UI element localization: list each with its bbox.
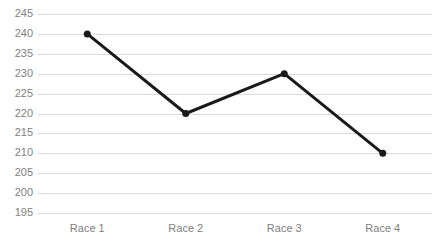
- line-chart: 245240235230225220215210205200195 Race 1…: [0, 0, 437, 242]
- x-axis-tick-label: Race 2: [168, 222, 203, 235]
- gridline: [38, 213, 432, 214]
- series-line: [38, 14, 432, 213]
- x-axis-tick-label: Race 4: [365, 222, 400, 235]
- y-axis-tick-label: 195: [0, 207, 33, 218]
- y-axis-tick-label: 205: [0, 167, 33, 178]
- y-axis-tick-label: 210: [0, 147, 33, 158]
- x-axis-tick-label: Race 1: [70, 222, 105, 235]
- y-axis-tick-label: 240: [0, 28, 33, 39]
- y-axis-tick-label: 245: [0, 8, 33, 19]
- y-axis-tick-label: 220: [0, 108, 33, 119]
- y-axis-tick-label: 235: [0, 48, 33, 59]
- plot-area: [38, 14, 432, 213]
- x-axis: Race 1Race 2Race 3Race 4: [38, 222, 432, 238]
- data-point-marker: [182, 110, 189, 117]
- data-point-marker: [379, 150, 386, 157]
- y-axis-tick-label: 230: [0, 68, 33, 79]
- data-point-marker: [281, 70, 288, 77]
- y-axis-tick-label: 200: [0, 187, 33, 198]
- y-axis-tick-label: 215: [0, 127, 33, 138]
- data-point-marker: [84, 30, 91, 37]
- y-axis-tick-label: 225: [0, 88, 33, 99]
- y-axis: 245240235230225220215210205200195: [0, 0, 33, 242]
- chart-title: [0, 0, 437, 1]
- x-axis-tick-label: Race 3: [267, 222, 302, 235]
